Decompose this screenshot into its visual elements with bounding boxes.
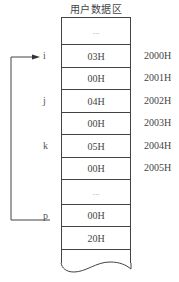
torn-edge-icon [61,262,131,272]
arrowhead-icon [32,55,40,60]
loop-arrow [0,0,179,282]
